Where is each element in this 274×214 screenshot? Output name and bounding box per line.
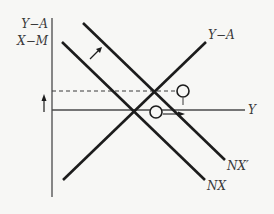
nx-label: NX (206, 179, 227, 193)
shift-arrow-icon (90, 47, 102, 59)
x-axis-label: Y (248, 103, 257, 117)
equilibrium-point-initial (150, 106, 162, 118)
y-axis-label-bottom: X−M (16, 34, 49, 48)
y-minus-a-label: Y−A (208, 28, 235, 42)
y-axis-label-top: Y−A (21, 17, 48, 31)
up-arrow-icon (42, 94, 47, 112)
nx-prime-label: NX′ (226, 159, 249, 173)
diagram-canvas: Y−A X−M Y Y−A NX′ NX (0, 0, 274, 214)
equilibrium-point-new (177, 85, 189, 97)
